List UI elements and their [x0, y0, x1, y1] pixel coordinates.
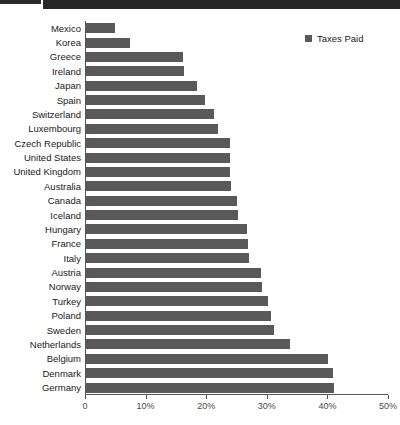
bar-row: Czech Republic: [86, 136, 388, 150]
bar-taxes-paid: [86, 224, 247, 234]
x-axis-tick-label: 10%: [137, 401, 155, 411]
bar-row: Iceland: [86, 208, 388, 222]
bar-row: Netherlands: [86, 337, 388, 351]
bar-row: Belgium: [86, 352, 388, 366]
bar-taxes-paid: [86, 311, 271, 321]
x-axis-tick-label: 30%: [258, 401, 276, 411]
category-label: Greece: [50, 50, 81, 63]
bar-row: Austria: [86, 265, 388, 279]
x-axis-tick-mark: [85, 395, 86, 399]
x-axis-tick-label: 50%: [379, 401, 397, 411]
top-header-strip: [0, 0, 398, 9]
bar-row: Germany: [86, 380, 388, 394]
bar-row: Norway: [86, 280, 388, 294]
category-label: Iceland: [50, 209, 81, 222]
category-label: Korea: [56, 36, 81, 49]
bar-taxes-paid: [86, 339, 290, 349]
category-label: Norway: [49, 280, 81, 293]
category-label: Netherlands: [30, 338, 81, 351]
category-label: Switzerland: [32, 108, 81, 121]
category-label: Spain: [57, 94, 81, 107]
category-label: Japan: [55, 79, 81, 92]
bar-row: Hungary: [86, 222, 388, 236]
bar-row: Ireland: [86, 64, 388, 78]
bar-taxes-paid: [86, 268, 261, 278]
category-label: Austria: [51, 266, 81, 279]
bar-taxes-paid: [86, 354, 328, 364]
x-axis-tick-mark: [146, 395, 147, 399]
bar-row: Switzerland: [86, 107, 388, 121]
taxes-paid-bar-chart: Taxes Paid MexicoKoreaGreeceIrelandJapan…: [0, 9, 398, 425]
bar-taxes-paid: [86, 383, 334, 393]
bar-row: Poland: [86, 309, 388, 323]
category-label: Poland: [51, 309, 81, 322]
bar-taxes-paid: [86, 167, 230, 177]
bar-row: Greece: [86, 50, 388, 64]
category-label: Luxembourg: [28, 122, 81, 135]
bar-row: Denmark: [86, 366, 388, 380]
bar-taxes-paid: [86, 296, 268, 306]
bar-taxes-paid: [86, 181, 231, 191]
bar-row: Italy: [86, 251, 388, 265]
category-label: Hungary: [45, 223, 81, 236]
bar-taxes-paid: [86, 138, 230, 148]
bar-row: France: [86, 237, 388, 251]
category-label: Mexico: [51, 22, 81, 35]
x-axis-tick-mark: [388, 395, 389, 399]
category-label: Denmark: [42, 367, 81, 380]
bar-row: Korea: [86, 35, 388, 49]
bar-row: Mexico: [86, 21, 388, 35]
bar-row: Spain: [86, 93, 388, 107]
bar-taxes-paid: [86, 196, 237, 206]
bar-taxes-paid: [86, 253, 249, 263]
bar-row: Canada: [86, 194, 388, 208]
header-strip-segment-right: [41, 0, 400, 9]
x-axis-tick-label: 40%: [318, 401, 336, 411]
category-label: Germany: [42, 381, 81, 394]
bar-row: United States: [86, 150, 388, 164]
bar-taxes-paid: [86, 66, 184, 76]
plot-area: MexicoKoreaGreeceIrelandJapanSpainSwitze…: [85, 21, 388, 395]
bar-row: Turkey: [86, 294, 388, 308]
bar-row: Australia: [86, 179, 388, 193]
bar-taxes-paid: [86, 124, 218, 134]
bar-row: Japan: [86, 79, 388, 93]
bar-taxes-paid: [86, 153, 230, 163]
category-label: Italy: [64, 252, 81, 265]
category-label: Ireland: [52, 65, 81, 78]
bar-taxes-paid: [86, 239, 248, 249]
category-label: United States: [24, 151, 81, 164]
bar-row: United Kingdom: [86, 165, 388, 179]
bar-taxes-paid: [86, 109, 214, 119]
category-label: Sweden: [47, 324, 81, 337]
category-label: Czech Republic: [14, 137, 81, 150]
x-axis-tick-mark: [206, 395, 207, 399]
category-label: United Kingdom: [13, 165, 81, 178]
bar-taxes-paid: [86, 368, 333, 378]
x-axis-tick-mark: [327, 395, 328, 399]
bar-row: Sweden: [86, 323, 388, 337]
bar-series-taxes-paid: MexicoKoreaGreeceIrelandJapanSpainSwitze…: [86, 21, 388, 395]
x-axis-tick-mark: [267, 395, 268, 399]
category-label: France: [51, 237, 81, 250]
bar-taxes-paid: [86, 38, 130, 48]
bar-taxes-paid: [86, 282, 262, 292]
bar-taxes-paid: [86, 23, 115, 33]
bar-taxes-paid: [86, 52, 183, 62]
bar-taxes-paid: [86, 95, 205, 105]
bar-taxes-paid: [86, 81, 197, 91]
x-axis-tick-label: 20%: [197, 401, 215, 411]
category-label: Canada: [48, 194, 81, 207]
category-label: Belgium: [47, 352, 81, 365]
bar-taxes-paid: [86, 325, 274, 335]
bar-taxes-paid: [86, 210, 238, 220]
category-label: Turkey: [52, 295, 81, 308]
category-label: Australia: [44, 180, 81, 193]
bar-row: Luxembourg: [86, 122, 388, 136]
x-axis-tick-label: 0: [82, 401, 87, 411]
